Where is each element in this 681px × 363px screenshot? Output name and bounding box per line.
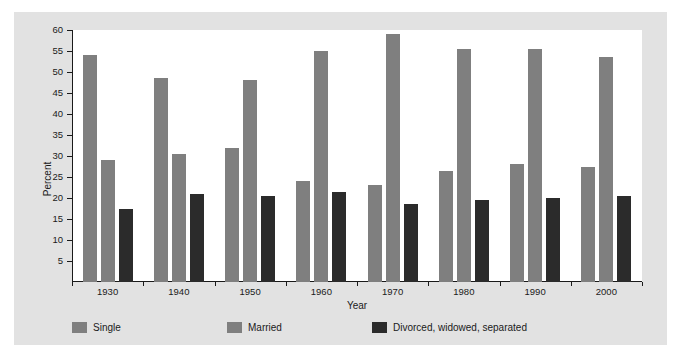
y-tick-label: 30 bbox=[52, 149, 63, 162]
legend-swatch bbox=[227, 322, 242, 333]
bar bbox=[368, 185, 382, 282]
y-tick: 60 bbox=[67, 30, 72, 31]
x-tick bbox=[215, 282, 216, 286]
bar bbox=[83, 55, 97, 282]
y-tick-label: 20 bbox=[52, 191, 63, 204]
y-tick: 25 bbox=[67, 177, 72, 178]
legend-swatch bbox=[372, 322, 387, 333]
bar bbox=[243, 80, 257, 282]
plot-wrapper: 51015202530354045505560 1930194019501960… bbox=[72, 30, 642, 282]
bar bbox=[457, 49, 471, 282]
bar bbox=[510, 164, 524, 282]
y-tick-label: 25 bbox=[52, 170, 63, 183]
bar bbox=[101, 160, 115, 282]
y-tick: 5 bbox=[67, 261, 72, 262]
x-tick bbox=[72, 282, 73, 286]
bar bbox=[404, 204, 418, 282]
x-tick-label: 1960 bbox=[311, 286, 332, 298]
x-tick bbox=[428, 282, 429, 286]
y-tick: 20 bbox=[67, 198, 72, 199]
x-tick-label: 2000 bbox=[596, 286, 617, 298]
legend-label: Married bbox=[248, 322, 282, 333]
x-tick-label: 1950 bbox=[240, 286, 261, 298]
x-tick-label: 1990 bbox=[525, 286, 546, 298]
x-axis-label: Year bbox=[72, 300, 642, 311]
y-tick-label: 60 bbox=[52, 23, 63, 36]
y-tick: 10 bbox=[67, 240, 72, 241]
bar bbox=[332, 192, 346, 282]
bar bbox=[190, 194, 204, 282]
x-tick-label: 1970 bbox=[382, 286, 403, 298]
y-tick-label: 45 bbox=[52, 86, 63, 99]
y-tick: 35 bbox=[67, 135, 72, 136]
y-axis-label: Percent bbox=[42, 161, 53, 195]
bar bbox=[225, 148, 239, 282]
bar bbox=[599, 57, 613, 282]
legend-item[interactable]: Divorced, widowed, separated bbox=[372, 322, 527, 333]
bar bbox=[172, 154, 186, 282]
bar bbox=[528, 49, 542, 282]
x-tick-label: 1930 bbox=[97, 286, 118, 298]
legend-item[interactable]: Married bbox=[227, 322, 282, 333]
legend-item[interactable]: Single bbox=[72, 322, 121, 333]
y-tick: 40 bbox=[67, 114, 72, 115]
bar bbox=[119, 209, 133, 283]
bar bbox=[546, 198, 560, 282]
chart-legend: SingleMarriedDivorced, widowed, separate… bbox=[72, 322, 121, 333]
bar bbox=[439, 171, 453, 282]
x-tick bbox=[357, 282, 358, 286]
y-tick: 15 bbox=[67, 219, 72, 220]
bar bbox=[617, 196, 631, 282]
bar bbox=[154, 78, 168, 282]
legend-label: Single bbox=[93, 322, 121, 333]
y-tick-label: 40 bbox=[52, 107, 63, 120]
y-tick: 50 bbox=[67, 72, 72, 73]
bar bbox=[314, 51, 328, 282]
y-tick: 45 bbox=[67, 93, 72, 94]
y-axis-line bbox=[72, 30, 73, 282]
x-tick bbox=[642, 282, 643, 286]
legend-swatch bbox=[72, 322, 87, 333]
y-tick-label: 5 bbox=[58, 254, 63, 267]
x-tick bbox=[571, 282, 572, 286]
bar bbox=[386, 34, 400, 282]
y-tick-label: 15 bbox=[52, 212, 63, 225]
x-tick-label: 1940 bbox=[168, 286, 189, 298]
chart-figure: Percent 51015202530354045505560 19301940… bbox=[14, 12, 667, 345]
x-tick bbox=[143, 282, 144, 286]
bar bbox=[261, 196, 275, 282]
y-tick-label: 55 bbox=[52, 44, 63, 57]
y-tick-label: 50 bbox=[52, 65, 63, 78]
y-tick-label: 35 bbox=[52, 128, 63, 141]
bar bbox=[296, 181, 310, 282]
x-tick bbox=[286, 282, 287, 286]
y-tick-label: 10 bbox=[52, 233, 63, 246]
x-tick bbox=[500, 282, 501, 286]
y-tick: 30 bbox=[67, 156, 72, 157]
x-tick-label: 1980 bbox=[453, 286, 474, 298]
bar bbox=[581, 167, 595, 283]
legend-label: Divorced, widowed, separated bbox=[393, 322, 527, 333]
y-tick: 55 bbox=[67, 51, 72, 52]
bar bbox=[475, 200, 489, 282]
